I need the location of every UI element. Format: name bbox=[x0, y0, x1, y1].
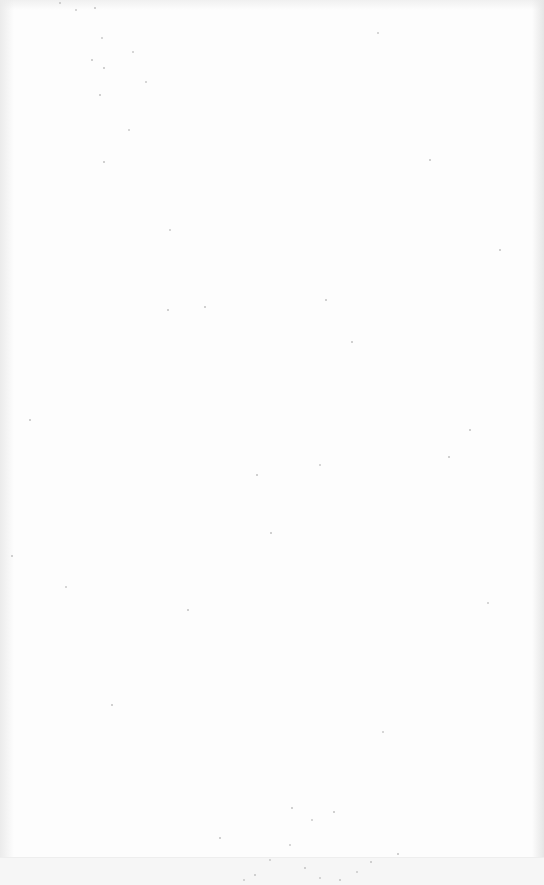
scan-speckle bbox=[145, 81, 147, 83]
scan-speckle bbox=[289, 844, 291, 846]
scan-speckle bbox=[351, 341, 353, 343]
scan-speckle bbox=[319, 464, 321, 466]
scan-speckle bbox=[448, 456, 450, 458]
scan-speckle bbox=[397, 853, 399, 855]
scan-speckle bbox=[487, 602, 489, 604]
scan-speckle bbox=[304, 867, 306, 869]
scan-speckle bbox=[243, 879, 245, 881]
scan-speckle bbox=[59, 2, 61, 4]
scan-speckle bbox=[101, 37, 103, 39]
scan-speckle bbox=[382, 731, 384, 733]
scan-speckle bbox=[219, 837, 221, 839]
scan-speckle bbox=[377, 32, 379, 34]
scan-speckle bbox=[325, 299, 327, 301]
scan-speckle bbox=[311, 819, 313, 821]
blank-scanned-page bbox=[0, 0, 544, 885]
scan-speckle bbox=[111, 704, 113, 706]
bottom-scan-band bbox=[0, 857, 544, 885]
scan-speckle bbox=[270, 532, 272, 534]
scan-speckle bbox=[75, 9, 77, 11]
scan-speckle bbox=[94, 7, 96, 9]
scan-speckle bbox=[128, 129, 130, 131]
scan-speckle bbox=[103, 67, 105, 69]
scan-speckle bbox=[132, 51, 134, 53]
top-edge-shadow bbox=[0, 0, 544, 10]
scan-speckle bbox=[356, 871, 358, 873]
scan-speckle bbox=[370, 861, 372, 863]
scan-speckle bbox=[167, 309, 169, 311]
scan-speckle bbox=[319, 877, 321, 879]
scan-speckle bbox=[269, 859, 271, 861]
scan-speckle bbox=[29, 419, 31, 421]
scan-speckle bbox=[103, 161, 105, 163]
scan-speckle bbox=[256, 474, 258, 476]
scan-speckle bbox=[204, 306, 206, 308]
scan-speckle bbox=[99, 94, 101, 96]
scan-speckle bbox=[469, 429, 471, 431]
scan-speckle bbox=[291, 807, 293, 809]
scan-speckle bbox=[91, 59, 93, 61]
scan-speckle bbox=[187, 609, 189, 611]
scan-speckle bbox=[333, 811, 335, 813]
scan-speckle bbox=[254, 874, 256, 876]
scan-speckle bbox=[169, 229, 171, 231]
scan-speckle bbox=[339, 879, 341, 881]
scan-speckle bbox=[499, 249, 501, 251]
scan-speckle bbox=[11, 555, 13, 557]
scan-speckle bbox=[65, 586, 67, 588]
right-edge-shadow bbox=[532, 0, 544, 885]
left-edge-shadow bbox=[0, 0, 14, 885]
scan-speckle bbox=[429, 159, 431, 161]
